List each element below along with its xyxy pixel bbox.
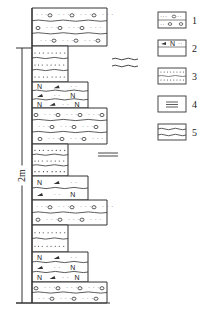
svg-text:· · ·: · · · bbox=[84, 37, 96, 43]
svg-text:· · ·: · · · bbox=[38, 295, 50, 301]
svg-text:· ·: · · bbox=[70, 179, 77, 185]
svg-text:N: N bbox=[70, 191, 75, 198]
svg-text:· · ·: · · · bbox=[58, 203, 70, 209]
scale-bar-label: 2m bbox=[16, 169, 27, 182]
svg-text:· · ·: · · · bbox=[80, 203, 92, 209]
svg-text:· · ·: · · · bbox=[92, 135, 104, 141]
svg-text:· · ·: · · · bbox=[60, 123, 72, 129]
svg-text:· · ·: · · · bbox=[46, 24, 58, 30]
legend-item-arkose: N··2 bbox=[158, 40, 197, 56]
pattern-conglomerate: · · ·· · ·· · · bbox=[34, 284, 104, 290]
svg-text:N: N bbox=[37, 179, 42, 186]
svg-text:· · ·: · · · bbox=[88, 284, 100, 290]
svg-text:· · ·: · · · bbox=[66, 284, 78, 290]
unit-sandstone bbox=[32, 225, 68, 252]
legend-item-wavy-bedding: 5 bbox=[158, 124, 197, 140]
svg-text:· · ·: · · · bbox=[70, 135, 82, 141]
svg-text:· · ·: · · · bbox=[36, 11, 48, 17]
unit-sandstone bbox=[32, 46, 68, 82]
svg-text:· ·: · · bbox=[62, 101, 69, 107]
svg-text:· · ·: · · · bbox=[38, 123, 50, 129]
scale-bar: 2m bbox=[16, 48, 32, 303]
svg-text:N: N bbox=[70, 92, 75, 99]
pattern-conglomerate: · · ·· · ·· · · bbox=[36, 216, 102, 222]
svg-text:· · ·: · · · bbox=[90, 216, 102, 222]
unit-sandstone bbox=[32, 144, 68, 176]
legend-number: 5 bbox=[192, 127, 197, 138]
svg-text:· ·: · · bbox=[54, 191, 61, 197]
legend-number: 4 bbox=[192, 99, 197, 110]
svg-text:· · ·: · · · bbox=[88, 111, 100, 117]
pattern-conglomerate: · · ·· · ·· · · bbox=[38, 135, 104, 141]
wavy-bedding-icon bbox=[112, 58, 138, 67]
horizontal-bedding-icon bbox=[98, 153, 118, 156]
legend-item-sandstone: 3 bbox=[158, 68, 197, 84]
svg-text:··: ·· bbox=[160, 21, 165, 27]
legend-number: 2 bbox=[192, 43, 197, 54]
svg-text:· · ·: · · · bbox=[82, 123, 94, 129]
svg-text:· · ·: · · · bbox=[46, 216, 58, 222]
svg-text:N: N bbox=[75, 274, 80, 281]
legend-item-horizontal-bedding: 4 bbox=[158, 96, 197, 112]
pattern-conglomerate: · · ·· · ·· · · bbox=[40, 37, 100, 43]
legend-item-conglomerate: ·······1 bbox=[158, 12, 197, 28]
svg-text:· ·: · · bbox=[54, 264, 61, 270]
svg-text:· · ·: · · · bbox=[62, 37, 74, 43]
legend-number: 3 bbox=[192, 71, 197, 82]
legend-number: 1 bbox=[192, 15, 197, 26]
pattern-conglomerate: · · ·· · ·· · · bbox=[38, 295, 98, 301]
legend-swatch-wavy-bedding bbox=[158, 124, 186, 140]
svg-text:· · ·: · · · bbox=[48, 135, 60, 141]
legend: ·······1N··2345 bbox=[158, 12, 197, 140]
svg-text:· ·: · · bbox=[70, 254, 77, 260]
svg-text:··: ·· bbox=[178, 40, 183, 46]
svg-text:· · ·: · · · bbox=[36, 203, 48, 209]
svg-text:N: N bbox=[170, 40, 175, 47]
svg-text:· · ·: · · · bbox=[60, 295, 72, 301]
stratigraphic-column-diagram: 2m · · ·· · ·· · ·· · ·· · ·· · ·· · ·· … bbox=[0, 0, 206, 309]
pattern-conglomerate: · · ·· · ·· · · bbox=[36, 24, 102, 30]
pattern-conglomerate: · · ·· · ·· · · bbox=[38, 123, 98, 129]
svg-text:· · ·: · · · bbox=[44, 284, 56, 290]
svg-text:N: N bbox=[37, 101, 42, 108]
svg-text:N: N bbox=[37, 83, 42, 90]
pattern-conglomerate: · · ·· · ·· · · bbox=[34, 111, 104, 117]
svg-text:N: N bbox=[70, 264, 75, 271]
stratigraphic-column: · · ·· · ·· · ·· · ·· · ·· · ·· · ·· · ·… bbox=[16, 8, 114, 303]
svg-text:N: N bbox=[37, 254, 42, 261]
legend-swatch-horizontal-bedding bbox=[158, 96, 186, 112]
svg-text:· · ·: · · · bbox=[82, 295, 94, 301]
svg-text:· · ·: · · · bbox=[90, 24, 102, 30]
svg-text:N: N bbox=[37, 274, 42, 281]
svg-text:· · ·: · · · bbox=[80, 11, 92, 17]
svg-text:· ·: · · bbox=[62, 274, 69, 280]
svg-text:· · ·: · · · bbox=[68, 24, 80, 30]
svg-text:· · ·: · · · bbox=[66, 111, 78, 117]
svg-text:· · ·: · · · bbox=[102, 203, 114, 209]
svg-text:N: N bbox=[75, 101, 80, 108]
svg-text:· ·: · · bbox=[54, 92, 61, 98]
svg-text:· · ·: · · · bbox=[102, 11, 114, 17]
svg-text:· ·: · · bbox=[70, 83, 77, 89]
svg-text:···: ··· bbox=[160, 13, 168, 19]
svg-text:· · ·: · · · bbox=[58, 11, 70, 17]
svg-text:··: ·· bbox=[177, 13, 182, 19]
svg-text:· · ·: · · · bbox=[68, 216, 80, 222]
svg-text:· · ·: · · · bbox=[40, 37, 52, 43]
svg-text:· · ·: · · · bbox=[44, 111, 56, 117]
